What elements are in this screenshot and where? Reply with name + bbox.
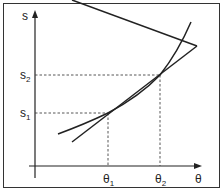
x-axis-arrow-icon bbox=[194, 163, 202, 169]
y-tick-s1: s1 bbox=[20, 106, 31, 122]
y-tick-s2: s2 bbox=[20, 68, 31, 84]
x-axis-label: θ bbox=[195, 172, 202, 186]
secant-line bbox=[72, 0, 197, 46]
convex-curve bbox=[58, 22, 191, 134]
y-axis-label: s bbox=[22, 9, 28, 23]
x-tick-theta2: θ2 bbox=[155, 172, 167, 188]
x-tick-theta1: θ1 bbox=[103, 172, 115, 188]
diagram-canvas: s θ s2 s1 θ1 θ2 bbox=[0, 0, 223, 193]
secant-line-path bbox=[72, 46, 197, 142]
y-axis-arrow-icon bbox=[32, 10, 38, 18]
